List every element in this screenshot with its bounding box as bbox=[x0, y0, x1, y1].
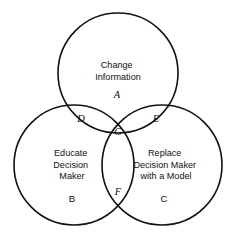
set-a-title-line-1: Change bbox=[101, 60, 133, 70]
region-label-f: F bbox=[114, 186, 122, 197]
region-label-e: E bbox=[152, 113, 160, 124]
set-b-title: Educate Decision Maker bbox=[53, 148, 90, 181]
set-b-title-line-1: Educate bbox=[54, 148, 87, 158]
set-b-title-line-3: Maker bbox=[59, 171, 84, 181]
region-label-c: C bbox=[161, 193, 168, 204]
set-c-title-line-3: with a Model bbox=[139, 171, 191, 181]
set-a-title-line-2: Information bbox=[95, 72, 141, 82]
venn-diagram-canvas: Change Information Educate Decision Make… bbox=[0, 0, 237, 241]
venn-diagram-figure: Change Information Educate Decision Make… bbox=[0, 0, 237, 241]
region-label-b: B bbox=[69, 193, 75, 204]
region-label-g: G bbox=[114, 126, 122, 137]
region-label-d: D bbox=[76, 113, 85, 124]
set-c-title-line-1: Replace bbox=[148, 148, 181, 158]
set-c-title-line-2: Decision Maker bbox=[133, 160, 196, 170]
set-a-title: Change Information bbox=[95, 60, 141, 82]
region-label-a: A bbox=[113, 89, 121, 100]
set-b-title-line-2: Decision bbox=[53, 160, 88, 170]
set-c-title: Replace Decision Maker with a Model bbox=[133, 148, 198, 181]
